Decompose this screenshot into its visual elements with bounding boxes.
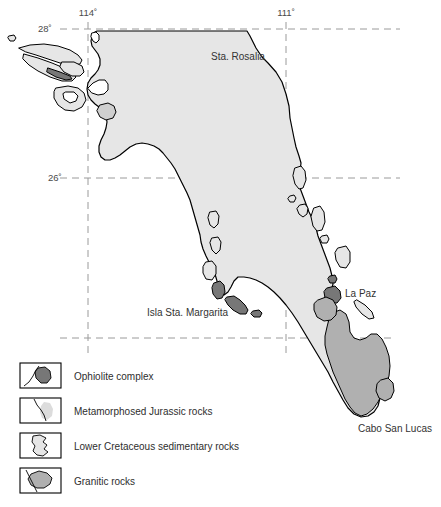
- legend-item-cretaceous[interactable]: Lower Cretaceous sedimentary rocks: [20, 433, 239, 458]
- label-la-paz: La Paz: [345, 288, 376, 299]
- northwest-islands-group: [8, 35, 86, 111]
- granitic-cape-body: [325, 310, 390, 416]
- west-island-c: [203, 261, 216, 280]
- nw-tiny-island: [8, 35, 16, 41]
- latitude-label-28: 28˚: [38, 23, 52, 34]
- metamorphic-units-group: [97, 103, 116, 120]
- label-sta-rosalia: Sta. Rosalia: [211, 51, 265, 62]
- gulf-island-6: [335, 246, 350, 268]
- legend-item-ophiolite[interactable]: Ophiolite complex: [20, 363, 153, 388]
- legend-label-granitic: Granitic rocks: [74, 476, 135, 487]
- metamorphic-patch-west: [97, 103, 116, 120]
- longitude-label-111: 111˚: [277, 7, 295, 18]
- legend-label-cretaceous: Lower Cretaceous sedimentary rocks: [74, 441, 239, 452]
- label-isla-sta-margarita: Isla Sta. Margarita: [147, 307, 229, 318]
- longitude-label-114: 114˚: [79, 7, 97, 18]
- latitude-label-26: 26˚: [48, 172, 62, 183]
- margarita-ophiolite-upper: [212, 281, 225, 299]
- gulf-island-espiritu-santo: [354, 300, 374, 319]
- legend-item-granitic[interactable]: Granitic rocks: [20, 468, 135, 493]
- margarita-ophiolite-main: [225, 296, 248, 314]
- gulf-island-la-paz-small: [328, 275, 337, 283]
- legend-label-ophiolite: Ophiolite complex: [74, 371, 153, 382]
- cretaceous-swatch-shape: [32, 435, 48, 456]
- margarita-ophiolite-small: [251, 310, 262, 317]
- baja-california-geologic-map: 28˚ 26˚ 114˚ 111˚: [0, 0, 441, 507]
- gulf-island-5: [320, 235, 329, 243]
- label-cabo-san-lucas: Cabo San Lucas: [358, 423, 432, 434]
- granitic-north-lobe: [314, 297, 337, 321]
- map-canvas: 28˚ 26˚ 114˚ 111˚: [0, 0, 441, 507]
- legend: Ophiolite complex Metamorphosed Jurassic…: [20, 363, 239, 493]
- legend-item-metamorphic[interactable]: Metamorphosed Jurassic rocks: [20, 398, 212, 423]
- legend-label-metamorphic: Metamorphosed Jurassic rocks: [74, 406, 212, 417]
